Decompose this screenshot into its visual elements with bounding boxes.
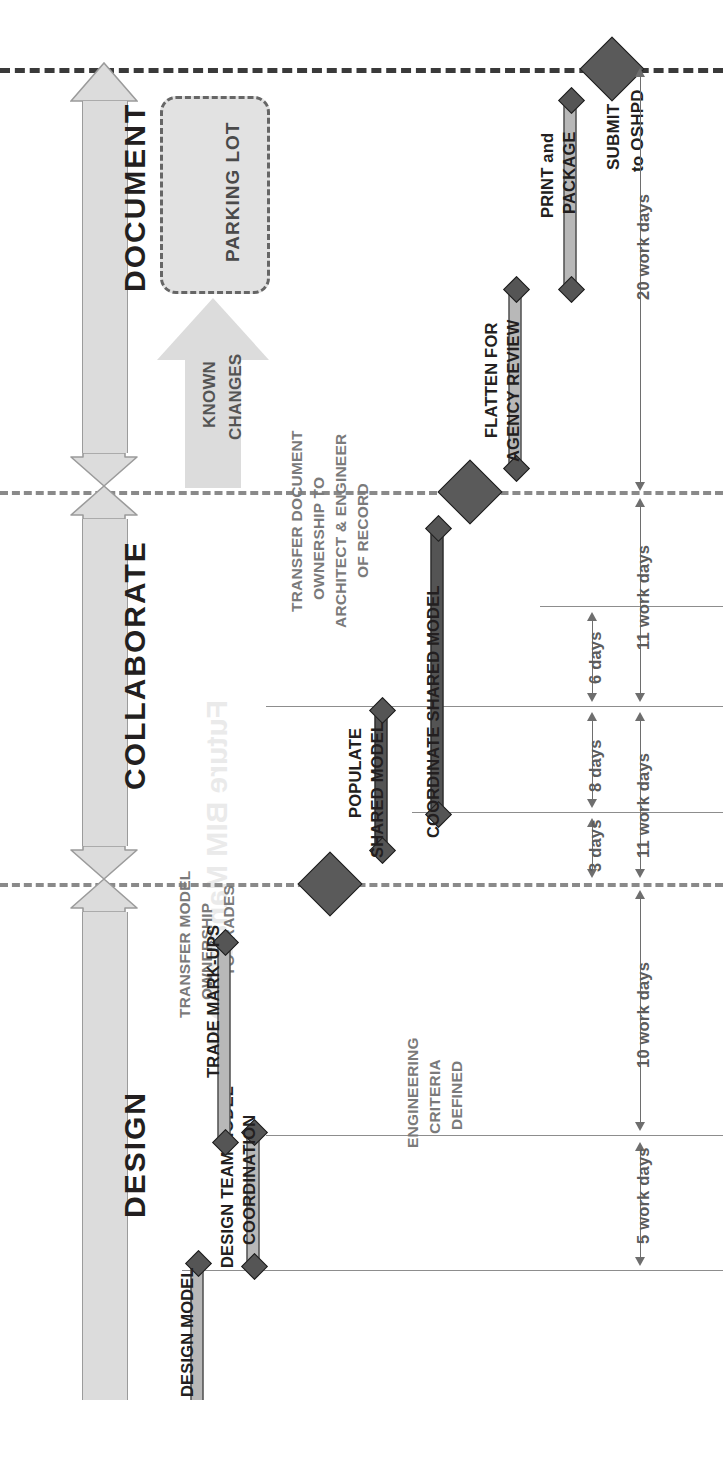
task-label-coordinate-shared-model: COORDINATE SHARED MODEL [424,585,442,838]
engineering-criteria-line1: ENGINEERING [404,1037,421,1148]
task-label-populate-shared-model-line1: POPULATE [346,728,364,818]
known-changes-label-line2: CHANGES [226,354,245,440]
transfer-model-line1: TRANSFER MODEL [176,871,193,1018]
phase-label-design: DESIGN [118,1091,152,1218]
transfer-document-line1: TRANSFER DOCUMENT [288,430,305,612]
dimarrow-11u-bottom [635,693,645,702]
refline-coordinate-start [266,706,723,707]
task-label-print-and-package-line1: PRINT and [538,133,556,218]
bar-endpoint-diamond-start [241,1253,268,1280]
spine-bowtie-document-collaborate [70,453,138,519]
engineering-criteria-line2: CRITERIA [426,1059,443,1134]
duration-label-6-days: 6 days [586,631,604,684]
bar-endpoint-diamond-end [558,87,585,114]
bar-endpoint-diamond-end [425,515,452,542]
dimarrow-6-top [587,612,597,621]
dimarrow-5-bottom [635,1257,645,1266]
spine-arrowhead-icon [70,62,138,102]
duration-label-10-work-days: 10 work days [634,962,652,1068]
transfer-document-line2: OWNERSHIP TO [310,477,327,600]
parking-lot-label: PARKING LOT [222,122,243,262]
dimarrow-10-top [635,890,645,899]
dimarrow-10-bottom [635,1122,645,1131]
spine-bowtie-collaborate-design [70,846,138,912]
milestone-diamond-transfer-to-trades [297,851,362,916]
bar-endpoint-diamond-end [369,697,396,724]
dimarrow-11l-top [635,712,645,721]
task-label-flatten-agency-review-line2: AGENCY REVIEW [504,319,522,462]
transfer-document-line3: ARCHITECT & ENGINEER [332,434,349,628]
refline-engineering-criteria [266,1135,723,1136]
parking-lot-box [160,96,270,294]
dimarrow-11u-top [635,498,645,507]
task-label-design-team-coordination-line2: COORDINATION [240,1115,258,1245]
dimarrow-11l-bottom [635,869,645,878]
transfer-document-line4: OF RECORD [354,483,371,578]
known-changes-label-line1: KNOWN [200,361,219,428]
task-label-design-model: DESIGN MODEL [178,1267,196,1397]
bar-endpoint-diamond-start [212,1129,239,1156]
task-label-flatten-agency-review-line1: FLATTEN FOR [482,322,500,438]
milestone-diamond-transfer-document-ownership [437,459,502,524]
duration-label-20-work-days: 20 work days [634,194,652,300]
dimarrow-20-top [635,68,645,77]
duration-label-11-work-days-lower: 11 work days [634,753,652,858]
duration-label-8-days: 8 days [586,739,604,792]
engineering-criteria-line3: DEFINED [448,1061,465,1130]
bar-endpoint-diamond-start [558,276,585,303]
refline-populate-end [540,606,723,607]
phase-label-document: DOCUMENT [118,103,152,292]
known-changes-arrowhead-icon [157,298,269,360]
milestone-label-submit-line1: SUBMIT [604,104,623,170]
task-label-trade-mark-ups: TRADE MARK-UPS [204,925,222,1078]
dimarrow-6-bottom [587,693,597,702]
duration-label-3-days: 3 days [586,819,604,872]
dimarrow-8-bottom [587,799,597,808]
refline-coordinate-end [412,812,723,813]
duration-label-11-work-days-upper: 11 work days [634,545,652,650]
dimarrow-20-bottom [635,482,645,491]
task-label-populate-shared-model-line2: SHARED MODEL [368,722,386,858]
phase-label-collaborate: COLLABORATE [118,540,152,790]
bar-endpoint-diamond-end [503,276,530,303]
process-timeline-diagram: Future BIM Management DOCUMENT COLLABORA… [0,0,723,1470]
dimarrow-8-top [587,712,597,721]
task-label-print-and-package-line2: PACKAGE [560,131,578,214]
milestone-label-submit-line2: to OSHPD [628,89,647,172]
duration-label-5-work-days: 5 work days [634,1147,652,1244]
